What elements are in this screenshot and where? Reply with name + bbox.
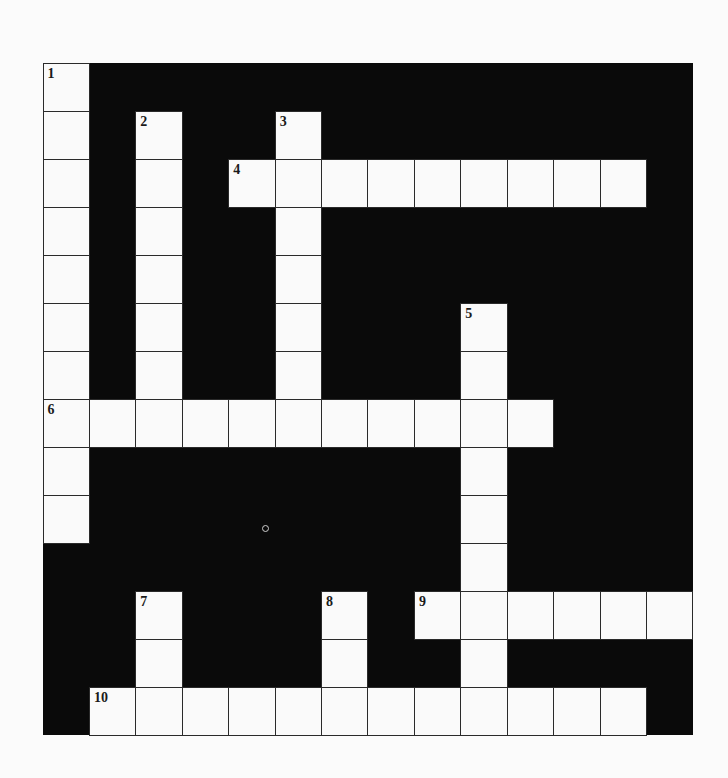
crossword-cell[interactable] (507, 591, 554, 640)
crossword-cell[interactable] (43, 207, 90, 256)
crossword-cell[interactable] (43, 303, 90, 352)
crossword-cell[interactable] (182, 687, 229, 736)
block-cell (322, 255, 368, 303)
crossword-cell[interactable]: 4 (228, 159, 275, 208)
block-cell (182, 543, 228, 591)
block-cell (414, 111, 460, 159)
crossword-cell[interactable] (646, 591, 693, 640)
crossword-cell[interactable] (43, 447, 90, 496)
block-cell (182, 207, 228, 255)
crossword-cell[interactable] (135, 255, 182, 304)
block-cell (322, 351, 368, 399)
crossword-cell[interactable] (321, 159, 368, 208)
crossword-cell[interactable] (460, 495, 507, 544)
crossword-cell[interactable]: 6 (43, 399, 90, 448)
block-cell (275, 63, 321, 111)
crossword-cell[interactable] (553, 687, 600, 736)
crossword-cell[interactable]: 8 (321, 591, 368, 640)
block-cell (414, 495, 460, 543)
block-cell (554, 639, 600, 687)
crossword-cell[interactable] (600, 687, 647, 736)
clue-number: 1 (48, 67, 55, 81)
block-cell (600, 63, 646, 111)
crossword-cell[interactable] (553, 591, 600, 640)
block-cell (554, 543, 600, 591)
crossword-cell[interactable] (321, 687, 368, 736)
crossword-cell[interactable] (275, 303, 322, 352)
crossword-cell[interactable] (275, 399, 322, 448)
crossword-cell[interactable] (135, 687, 182, 736)
crossword-cell[interactable] (275, 207, 322, 256)
crossword-cell[interactable] (182, 399, 229, 448)
crossword-cell[interactable] (414, 399, 461, 448)
block-cell (275, 639, 321, 687)
block-cell (507, 639, 553, 687)
crossword-cell[interactable] (228, 399, 275, 448)
block-cell (414, 303, 460, 351)
clue-number: 5 (465, 307, 472, 321)
crossword-cell[interactable] (135, 207, 182, 256)
block-cell (89, 351, 135, 399)
crossword-cell[interactable] (275, 255, 322, 304)
crossword-cell[interactable] (135, 303, 182, 352)
block-cell (182, 303, 228, 351)
crossword-cell[interactable] (367, 399, 414, 448)
crossword-cell[interactable]: 7 (135, 591, 182, 640)
crossword-cell[interactable] (135, 159, 182, 208)
crossword-cell[interactable] (553, 159, 600, 208)
crossword-cell[interactable] (275, 687, 322, 736)
crossword-cell[interactable] (367, 159, 414, 208)
crossword-cell[interactable] (43, 111, 90, 160)
crossword-cell[interactable] (460, 639, 507, 688)
crossword-cell[interactable] (367, 687, 414, 736)
crossword-cell[interactable] (600, 591, 647, 640)
block-cell (322, 543, 368, 591)
crossword-cell[interactable] (135, 639, 182, 688)
crossword-cell[interactable] (507, 687, 554, 736)
crossword-cell[interactable] (43, 495, 90, 544)
crossword-cell[interactable] (135, 399, 182, 448)
block-cell (322, 111, 368, 159)
crossword-cell[interactable] (460, 351, 507, 400)
crossword-cell[interactable] (460, 591, 507, 640)
block-cell (414, 63, 460, 111)
block-cell (461, 255, 507, 303)
crossword-cell[interactable]: 1 (43, 63, 90, 112)
crossword-cell[interactable]: 10 (89, 687, 136, 736)
crossword-cell[interactable]: 9 (414, 591, 461, 640)
crossword-cell[interactable] (507, 159, 554, 208)
crossword-cell[interactable] (321, 399, 368, 448)
crossword-cell[interactable] (414, 687, 461, 736)
crossword-cell[interactable] (460, 687, 507, 736)
block-cell (43, 639, 89, 687)
crossword-cell[interactable]: 5 (460, 303, 507, 352)
block-cell (182, 447, 228, 495)
crossword-cell[interactable] (321, 639, 368, 688)
crossword-cell[interactable] (460, 399, 507, 448)
crossword-cell[interactable] (275, 159, 322, 208)
block-cell (507, 207, 553, 255)
crossword-cell[interactable] (275, 351, 322, 400)
block-cell (368, 303, 414, 351)
block-cell (461, 111, 507, 159)
crossword-cell[interactable] (507, 399, 554, 448)
crossword-cell[interactable] (600, 159, 647, 208)
crossword-cell[interactable] (89, 399, 136, 448)
block-cell (507, 351, 553, 399)
crossword-cell[interactable] (43, 351, 90, 400)
block-cell (554, 255, 600, 303)
block-cell (647, 687, 693, 735)
crossword-cell[interactable] (43, 159, 90, 208)
crossword-cell[interactable] (228, 687, 275, 736)
crossword-cell[interactable] (460, 447, 507, 496)
crossword-cell[interactable] (43, 255, 90, 304)
block-cell (600, 495, 646, 543)
crossword-cell[interactable] (460, 543, 507, 592)
block-cell (368, 447, 414, 495)
crossword-cell[interactable] (135, 351, 182, 400)
crossword-cell[interactable] (414, 159, 461, 208)
block-cell (600, 639, 646, 687)
crossword-cell[interactable] (460, 159, 507, 208)
crossword-cell[interactable]: 2 (135, 111, 182, 160)
crossword-cell[interactable]: 3 (275, 111, 322, 160)
